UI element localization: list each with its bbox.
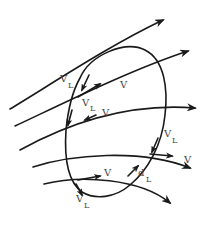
svg-text:V: V	[75, 193, 84, 204]
svg-text:L: L	[90, 104, 96, 113]
svg-text:L: L	[84, 201, 90, 210]
label-v-mid-left: V	[101, 107, 110, 118]
label-v-right: V	[183, 154, 192, 165]
svg-text:L: L	[68, 81, 74, 90]
svg-text:V: V	[183, 154, 192, 165]
svg-text:L: L	[146, 175, 152, 184]
svg-text:L: L	[172, 136, 178, 145]
label-vl-right: V L	[163, 128, 178, 145]
flow-line-1	[10, 20, 163, 109]
svg-text:V: V	[103, 167, 112, 178]
svg-text:V: V	[81, 97, 90, 108]
vl-arrow-top-left	[82, 75, 89, 90]
flow-line-4	[33, 155, 190, 168]
svg-text:d: d	[138, 167, 145, 178]
label-vl-top-left: V L	[59, 73, 74, 90]
label-v-top-center: V	[119, 79, 128, 90]
svg-text:V: V	[163, 128, 172, 139]
svg-text:V: V	[119, 79, 128, 90]
v-arrow-top	[78, 84, 100, 97]
label-vl-mid-left: V L	[81, 97, 96, 113]
label-v-bottom: V	[103, 167, 112, 178]
flow-loop-diagram: V L V V L V V L V V d L V L	[0, 0, 208, 225]
svg-text:V: V	[101, 107, 110, 118]
svg-text:V: V	[59, 73, 68, 84]
dl-arrow-bottom	[128, 166, 138, 176]
